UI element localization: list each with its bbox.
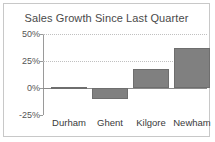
gridline-50 bbox=[43, 34, 207, 35]
bar-newham[interactable] bbox=[174, 48, 210, 88]
y-tick-mark-neg-25 bbox=[39, 115, 43, 116]
bar-ghent[interactable] bbox=[92, 88, 128, 99]
plot-area bbox=[43, 34, 207, 115]
y-tick-label-neg-25: -25% bbox=[8, 110, 40, 120]
y-tick-label-0: 0% bbox=[8, 83, 40, 93]
chart-frame: Sales Growth Since Last Quarter 50% 25% … bbox=[3, 3, 210, 137]
y-tick-label-25: 25% bbox=[8, 56, 40, 66]
y-axis: 50% 25% 0% -25% bbox=[4, 4, 40, 142]
y-tick-label-50: 50% bbox=[8, 29, 40, 39]
x-tick-label-newham: Newham bbox=[166, 117, 215, 128]
bar-durham[interactable] bbox=[51, 87, 87, 89]
x-axis: Durham Ghent Kilgore Newham bbox=[43, 117, 207, 133]
bar-kilgore[interactable] bbox=[133, 69, 169, 88]
